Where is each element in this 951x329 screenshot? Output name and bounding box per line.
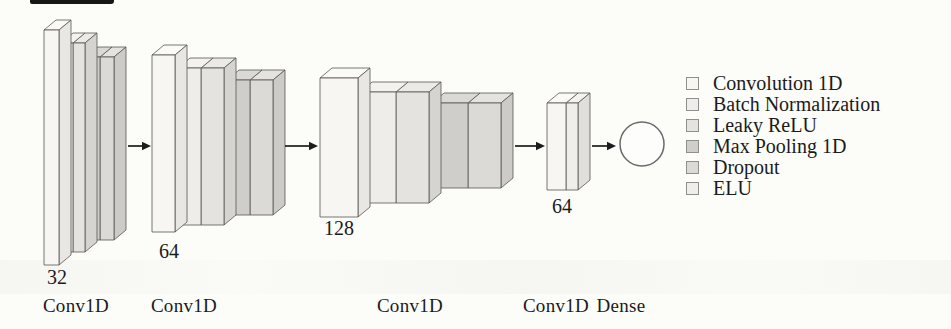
legend-item-batchnorm: Batch Normalization (686, 94, 880, 115)
flow-arrow-4 (592, 142, 616, 150)
legend-label: Batch Normalization (713, 94, 880, 115)
legend-label: Max Pooling 1D (713, 136, 846, 157)
filter-count-label: 32 (47, 266, 67, 288)
leakyrelu-bar-front-face (201, 68, 224, 225)
legend-swatch-elu-icon (686, 182, 699, 195)
conv-block-3: 128 Conv1D (320, 68, 513, 316)
block-bars-4 (547, 93, 590, 190)
legend-item-leakyrelu: Leaky ReLU (686, 115, 880, 136)
arrow-head-icon (607, 142, 616, 150)
conv-bar-side-face (59, 20, 71, 265)
block-bars-2 (152, 45, 285, 232)
block-caption: Conv1D (43, 295, 109, 316)
arrow-head-icon (309, 142, 318, 150)
leakyrelu-bar-front-face (73, 43, 85, 252)
block-caption: Conv1D (523, 295, 589, 316)
legend-item-maxpool: Max Pooling 1D (686, 136, 880, 157)
elu-bar-front-face (566, 103, 578, 190)
legend-label: Dropout (713, 157, 780, 178)
legend-item-conv: Convolution 1D (686, 73, 880, 94)
arrow-head-icon (142, 142, 151, 150)
flow-arrow-3 (515, 142, 545, 150)
legend: Convolution 1DBatch NormalizationLeaky R… (686, 73, 880, 199)
dropout-bar-side-face (114, 47, 126, 240)
conv-bar-front-face (152, 55, 175, 232)
block-bars-1 (44, 20, 126, 265)
block-caption: Conv1D (377, 295, 443, 316)
legend-swatch-conv-icon (686, 77, 699, 90)
dropout-bar-side-face (273, 70, 285, 215)
legend-item-elu: ELU (686, 178, 880, 199)
block-caption: Conv1D (151, 295, 217, 316)
conv-bar-front-face (44, 30, 59, 265)
dropout-bar-front-face (100, 57, 114, 240)
block-caption: Dense (597, 295, 646, 316)
conv-block-4: 64 Conv1D (523, 93, 590, 316)
flow-arrow-2 (285, 142, 318, 150)
block-bars-3 (320, 68, 513, 217)
legend-label: ELU (713, 178, 752, 199)
legend-label: Convolution 1D (713, 73, 842, 94)
legend-label: Leaky ReLU (713, 115, 817, 136)
dropout-bar-side-face (501, 93, 513, 188)
conv-bar-front-face (547, 103, 566, 190)
arrow-head-icon (536, 142, 545, 150)
filter-count-label: 64 (159, 240, 179, 262)
filter-count-label: 128 (324, 217, 354, 239)
leakyrelu-bar-side-face (224, 58, 236, 225)
conv-block-2: 64 Conv1D (151, 45, 285, 316)
dense-layer: Dense (597, 122, 664, 316)
leakyrelu-bar-side-face (429, 82, 441, 203)
leakyrelu-bar-side-face (85, 33, 97, 252)
dense-node (620, 122, 664, 166)
legend-swatch-dropout-icon (686, 161, 699, 174)
elu-bar-side-face (578, 93, 590, 190)
conv-block-1: 32 Conv1D (43, 20, 126, 316)
dropout-bar-front-face (468, 103, 501, 188)
filter-count-label: 64 (552, 195, 572, 217)
legend-swatch-maxpool-icon (686, 140, 699, 153)
flow-arrow-1 (128, 142, 151, 150)
conv-bar-front-face (320, 78, 358, 217)
conv-bar-side-face (358, 68, 370, 217)
dropout-bar-front-face (250, 80, 273, 215)
conv-bar-side-face (175, 45, 187, 232)
legend-swatch-leakyrelu-icon (686, 119, 699, 132)
legend-swatch-batchnorm-icon (686, 98, 699, 111)
leakyrelu-bar-front-face (396, 92, 429, 203)
legend-item-dropout: Dropout (686, 157, 880, 178)
